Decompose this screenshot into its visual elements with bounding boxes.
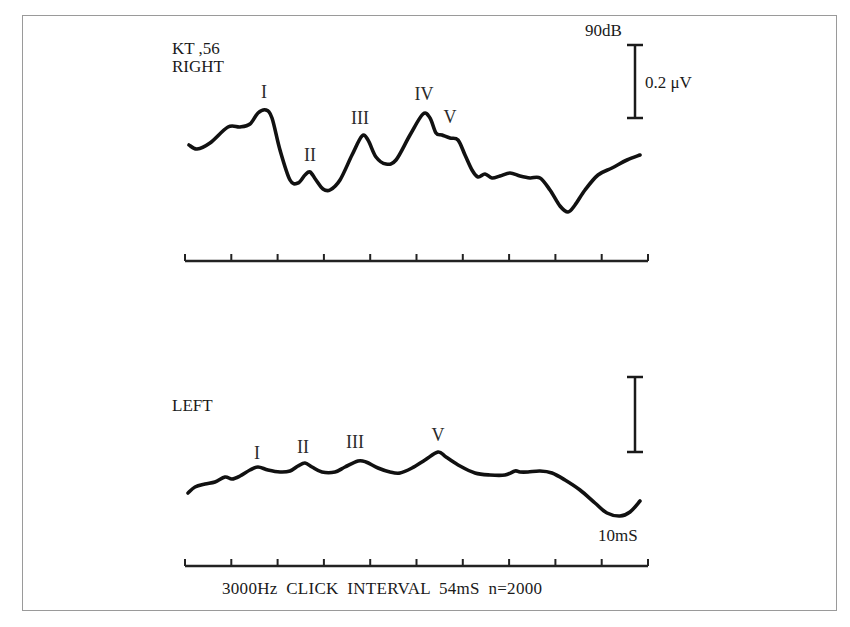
peak-label: I [254, 444, 260, 462]
peak-label: I [261, 83, 267, 101]
peak-label: II [297, 438, 309, 456]
peak-label: V [432, 426, 445, 444]
level-label: 90dB [585, 22, 622, 39]
right-label: RIGHT [172, 58, 224, 75]
time-scale-label: 10mS [598, 527, 638, 544]
scale-bar-bottom [627, 377, 643, 452]
stimulus-footer: 3000Hz CLICK INTERVAL 54mS n=2000 [222, 580, 542, 597]
scale-bar-top [627, 45, 643, 118]
scale-label: 0.2 μV [645, 74, 692, 91]
right-ear-waveform [189, 110, 640, 212]
peak-label: II [304, 146, 316, 164]
time-axes [185, 254, 648, 566]
subject-label: KT ,56 [172, 40, 220, 57]
peak-label: V [444, 108, 457, 126]
peak-label: III [346, 433, 364, 451]
peak-label: IV [415, 85, 434, 103]
left-label: LEFT [172, 397, 213, 414]
peak-label: III [351, 109, 369, 127]
